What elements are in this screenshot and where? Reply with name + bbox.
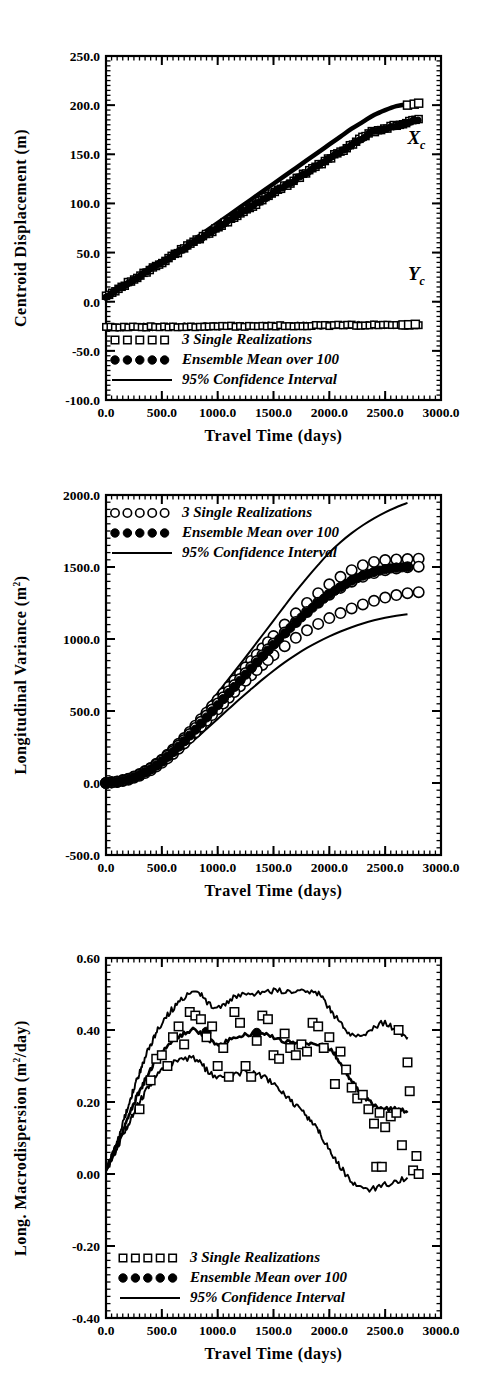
x-tick-label: 1000.0 [199, 860, 236, 875]
x-tick-label: 0.0 [98, 860, 115, 875]
marker-open-square [136, 336, 144, 344]
marker-open-square [398, 1141, 407, 1150]
marker-filled-circle [107, 778, 116, 787]
y-tick-label: 0.60 [76, 951, 100, 966]
x-tick-label: 500.0 [147, 405, 178, 420]
x-tick-label: 2500.0 [367, 1323, 404, 1338]
marker-open-circle [148, 509, 156, 517]
legend-item: 95% Confidence Interval [112, 544, 338, 560]
x-tick-label: 3000.0 [422, 1323, 459, 1338]
marker-open-square [236, 1019, 245, 1028]
marker-open-square [135, 1105, 144, 1114]
y-tick-label: -0.20 [72, 1239, 100, 1254]
marker-filled-circle [274, 634, 283, 643]
x-tick-label: 2500.0 [367, 860, 404, 875]
y-tick-label: 100.0 [70, 196, 101, 211]
y-tick-label: 500.0 [70, 704, 101, 719]
marker-open-circle [291, 633, 301, 643]
marker-open-circle [369, 596, 379, 606]
marker-open-circle [160, 509, 168, 517]
x-tick-label: 3000.0 [422, 405, 459, 420]
x-tick-label: 2500.0 [367, 405, 404, 420]
panel-3-svg: 0.0500.01000.01500.02000.02500.03000.0-0… [0, 920, 491, 1383]
y-tick-label: 0.40 [76, 1023, 100, 1038]
annotation-xc: Xc [406, 127, 426, 152]
marker-open-square [280, 1029, 289, 1038]
legend-item: Ensemble Mean over 100 [111, 524, 340, 540]
y-tick-label: 2000.0 [63, 488, 100, 503]
marker-open-square [264, 1015, 273, 1024]
marker-open-square [219, 1044, 228, 1053]
marker-open-circle [413, 587, 423, 597]
y-tick-label: 150.0 [70, 147, 101, 162]
marker-open-square [174, 1022, 183, 1031]
legend-label: 3 Single Realizations [189, 1249, 320, 1265]
marker-open-square [132, 1254, 140, 1262]
marker-open-square [381, 1123, 390, 1132]
marker-open-square [230, 1008, 239, 1017]
marker-open-circle [413, 562, 423, 572]
x-tick-label: 3000.0 [422, 860, 459, 875]
x-tick-label: 1500.0 [255, 1323, 292, 1338]
marker-open-square [148, 336, 156, 344]
marker-open-circle [358, 560, 368, 570]
marker-open-square [241, 1062, 250, 1071]
legend-item: 95% Confidence Interval [120, 1289, 346, 1305]
marker-open-square [336, 1047, 345, 1056]
x-tick-label: 0.0 [98, 405, 115, 420]
marker-open-square [342, 1065, 351, 1074]
marker-filled-circle [230, 682, 239, 691]
marker-filled-circle [160, 529, 168, 537]
x-tick-label: 0.0 [98, 1323, 115, 1338]
y-tick-label: -0.40 [72, 1311, 100, 1326]
marker-open-circle [111, 509, 119, 517]
legend-label: 95% Confidence Interval [182, 544, 338, 560]
y-tick-label: 0.00 [76, 1167, 100, 1182]
marker-filled-circle [123, 529, 131, 537]
marker-filled-circle [144, 1274, 152, 1282]
legend-item: Ensemble Mean over 100 [119, 1269, 348, 1285]
annotation-yc: Yc [408, 263, 426, 288]
marker-filled-circle [286, 623, 295, 632]
y-tick-label: 0.0 [83, 295, 100, 310]
x-tick-label: 2000.0 [311, 405, 348, 420]
marker-filled-circle [330, 586, 339, 595]
marker-open-square [359, 1091, 368, 1100]
marker-filled-circle [119, 1274, 127, 1282]
x-axis-label: Travel Time (days) [205, 427, 343, 445]
marker-open-circle [380, 592, 390, 602]
marker-open-square [119, 1254, 127, 1262]
marker-open-square [247, 1073, 256, 1082]
y-axis-label: Longitudinal Variance (m2) [12, 575, 30, 774]
legend-item: Ensemble Mean over 100 [111, 351, 340, 367]
x-tick-label: 1500.0 [255, 860, 292, 875]
panel-centroid-displacement: 0.0500.01000.01500.02000.02500.03000.0-1… [0, 0, 491, 460]
y-tick-label: 1000.0 [63, 632, 100, 647]
marker-open-square [364, 1105, 373, 1114]
marker-open-circle [136, 509, 144, 517]
marker-open-square [411, 320, 419, 328]
y-tick-label: -50.0 [72, 344, 100, 359]
marker-filled-circle [219, 695, 228, 704]
y-tick-label: -100.0 [65, 393, 100, 408]
marker-filled-circle [160, 356, 168, 364]
marker-open-square [392, 1109, 401, 1118]
marker-open-square [146, 1076, 155, 1085]
legend-item: 3 Single Realizations [119, 1249, 320, 1265]
marker-open-square [415, 99, 423, 107]
marker-open-square [253, 1037, 262, 1046]
marker-open-square [158, 1051, 167, 1060]
marker-open-square [375, 1109, 384, 1118]
marker-filled-circle [241, 670, 250, 679]
x-axis-label: Travel Time (days) [205, 1345, 343, 1363]
marker-filled-circle [353, 574, 362, 583]
y-axis-label: Long. Macrodispersion (m2/day) [12, 1020, 30, 1256]
marker-open-square [314, 1022, 323, 1031]
legend-item: 3 Single Realizations [111, 331, 312, 347]
marker-filled-circle [185, 731, 194, 740]
legend-label: Ensemble Mean over 100 [189, 1269, 348, 1285]
legend-label: 95% Confidence Interval [182, 371, 338, 387]
marker-filled-circle [297, 613, 306, 622]
x-tick-label: 1000.0 [199, 1323, 236, 1338]
marker-filled-circle [131, 1274, 139, 1282]
